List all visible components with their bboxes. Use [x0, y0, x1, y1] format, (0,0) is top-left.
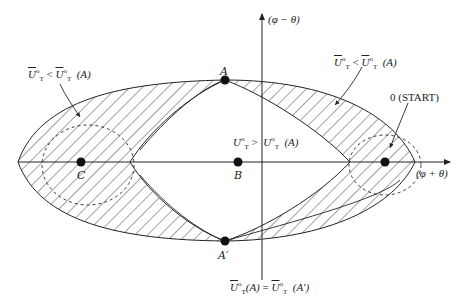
region-label-center: UoT > UoT (A) [233, 136, 298, 151]
point-C [77, 158, 86, 167]
label-B: B [234, 170, 242, 181]
point-B [234, 158, 243, 167]
label-start: 0 (START) [390, 92, 439, 103]
label-A-prime: A′ [218, 250, 228, 261]
region-label-upper-right: UoT < UoT (A) [334, 56, 397, 71]
region-label-bottom: UoT(A) = UoT (A′) [230, 281, 309, 296]
point-start [381, 158, 390, 167]
label-C: C [77, 170, 85, 181]
point-A-prime [221, 237, 230, 246]
vertical-axis-label: (φ − θ) [268, 14, 300, 25]
phase-diagram: (φ − θ) (φ + θ) A A′ B C 0 (START) UoT <… [0, 0, 461, 306]
diagram-canvas [0, 0, 461, 306]
horizontal-axis-label: (φ + θ) [416, 168, 448, 179]
label-A: A [220, 66, 228, 77]
region-label-upper-left: UoT < UoT (A) [28, 68, 91, 83]
